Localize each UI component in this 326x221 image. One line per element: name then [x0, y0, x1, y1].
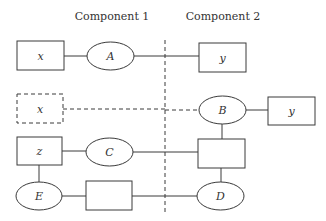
node-z: z — [17, 137, 62, 165]
node-label: x — [37, 103, 44, 116]
node-label: D — [215, 190, 225, 203]
node-x-row1: x — [17, 41, 64, 70]
node-y-row1: y — [199, 43, 246, 72]
node-y-row2: y — [268, 97, 315, 125]
rect-shape — [86, 181, 132, 210]
node-label: y — [218, 52, 226, 65]
node-label: C — [105, 146, 114, 159]
node-D: D — [197, 182, 244, 210]
component-diagram: Component 1 Component 2 x A y — [0, 0, 326, 221]
node-empty-box-right — [198, 139, 245, 168]
node-label: E — [34, 190, 43, 203]
node-label: x — [37, 50, 44, 63]
node-label: z — [36, 145, 43, 158]
node-C: C — [86, 138, 133, 166]
node-x-row2-dashed: x — [17, 94, 63, 123]
node-label: B — [217, 104, 226, 117]
diagram-canvas: Component 1 Component 2 x A y — [0, 0, 326, 221]
rect-shape — [198, 139, 245, 168]
node-A: A — [87, 42, 134, 70]
header-component-2: Component 2 — [186, 10, 261, 23]
node-B: B — [199, 96, 246, 124]
header-component-1: Component 1 — [75, 10, 150, 23]
node-label: y — [287, 105, 295, 118]
node-empty-box-left — [86, 181, 132, 210]
node-label: A — [106, 50, 115, 63]
node-E: E — [16, 182, 62, 210]
